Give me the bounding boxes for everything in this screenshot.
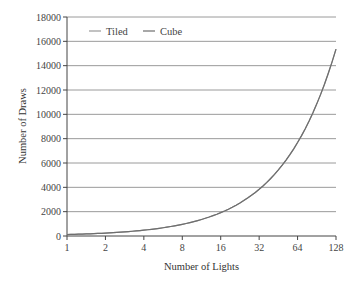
series-cube [67,49,336,234]
x-tick-label: 2 [103,242,108,253]
y-tick-label: 0 [56,231,61,242]
y-tick-label: 18000 [36,12,61,23]
x-tick-label: 32 [254,242,264,253]
x-tick-label: 16 [216,242,226,253]
x-tick-label: 64 [293,242,303,253]
x-tick-label: 128 [329,242,344,253]
legend-label-cube: Cube [160,26,183,37]
y-tick-label: 16000 [36,36,61,47]
y-tick-label: 4000 [41,182,61,193]
y-tick-label: 10000 [36,109,61,120]
y-tick-label: 12000 [36,85,61,96]
series-tiled [67,49,336,234]
gridlines [67,17,336,212]
x-axis-ticks: 1248163264128 [65,236,344,253]
legend-label-tiled: Tiled [106,26,129,37]
y-tick-label: 14000 [36,60,61,71]
x-tick-label: 8 [180,242,185,253]
y-axis-label: Number of Draws [17,88,28,164]
x-axis-label: Number of Lights [164,261,239,272]
y-axis-ticks: 0200040006000800010000120001400016000180… [36,12,67,242]
y-tick-label: 2000 [41,206,61,217]
x-tick-label: 4 [141,242,146,253]
y-tick-label: 8000 [41,133,61,144]
line-chart: 0200040006000800010000120001400016000180… [0,0,360,283]
legend: Tiled Cube [89,26,183,37]
y-tick-label: 6000 [41,158,61,169]
x-tick-label: 1 [65,242,70,253]
series-lines [67,49,336,234]
